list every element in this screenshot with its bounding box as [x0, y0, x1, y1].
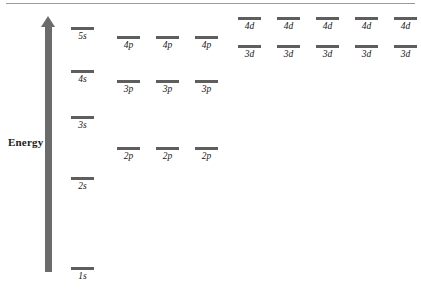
orbital-level-label: 4p: [156, 40, 179, 51]
orbital-level-label: 2s: [71, 181, 94, 192]
orbital-level-3p-2: 3p: [156, 80, 179, 95]
orbital-level-label: 2p: [156, 151, 179, 162]
orbital-level-label: 4d: [277, 21, 300, 32]
orbital-level-4d-4: 4d: [238, 17, 261, 32]
orbital-level-label: 3d: [238, 49, 261, 60]
orbital-level-label: 2p: [195, 151, 218, 162]
orbital-level-bar: [156, 80, 179, 83]
orbital-level-4p-3: 4p: [195, 36, 218, 51]
orbital-level-label: 3d: [316, 49, 339, 60]
energy-level-diagram: Energy 1s2s3s4s5s2p2p2p3p3p3p4p4p4p3d3d3…: [0, 0, 421, 292]
orbital-level-bar: [156, 147, 179, 150]
orbital-level-bar: [316, 45, 339, 48]
orbital-level-4d-5: 4d: [277, 17, 300, 32]
orbital-level-label: 3p: [156, 84, 179, 95]
orbital-level-bar: [195, 80, 218, 83]
orbital-level-label: 3p: [195, 84, 218, 95]
orbital-level-bar: [156, 36, 179, 39]
orbital-level-bar: [71, 267, 94, 270]
orbital-level-3d-7: 3d: [355, 45, 378, 60]
orbital-level-bar: [71, 177, 94, 180]
orbital-level-label: 4d: [238, 21, 261, 32]
orbital-level-4d-7: 4d: [355, 17, 378, 32]
orbital-level-3d-5: 3d: [277, 45, 300, 60]
orbital-level-bar: [71, 116, 94, 119]
orbital-level-label: 3d: [394, 49, 417, 60]
orbital-level-bar: [195, 147, 218, 150]
orbital-level-bar: [117, 147, 140, 150]
orbital-level-bar: [355, 45, 378, 48]
orbital-level-label: 4s: [71, 74, 94, 85]
orbital-level-4p-2: 4p: [156, 36, 179, 51]
orbital-level-label: 3p: [117, 84, 140, 95]
orbital-level-bar: [117, 36, 140, 39]
orbital-level-bar: [277, 45, 300, 48]
energy-axis-label: Energy: [8, 136, 43, 148]
orbital-level-4p-1: 4p: [117, 36, 140, 51]
orbital-level-3s-0: 3s: [71, 116, 94, 131]
orbital-level-bar: [117, 80, 140, 83]
orbital-level-2p-3: 2p: [195, 147, 218, 162]
orbital-level-3p-1: 3p: [117, 80, 140, 95]
orbital-level-2p-2: 2p: [156, 147, 179, 162]
orbital-level-label: 3d: [277, 49, 300, 60]
orbital-level-label: 1s: [71, 271, 94, 282]
orbital-level-bar: [195, 36, 218, 39]
orbital-level-1s-0: 1s: [71, 267, 94, 282]
orbital-level-bar: [355, 17, 378, 20]
orbital-level-bar: [316, 17, 339, 20]
orbital-level-bar: [238, 17, 261, 20]
orbital-level-label: 3s: [71, 120, 94, 131]
orbital-level-label: 4d: [394, 21, 417, 32]
top-divider-rule: [6, 3, 415, 4]
orbital-level-label: 4d: [355, 21, 378, 32]
orbital-level-5s-0: 5s: [71, 27, 94, 42]
orbital-level-label: 4p: [117, 40, 140, 51]
orbital-level-3p-3: 3p: [195, 80, 218, 95]
orbital-level-4d-6: 4d: [316, 17, 339, 32]
orbital-level-label: 4p: [195, 40, 218, 51]
orbital-level-4d-8: 4d: [394, 17, 417, 32]
orbital-level-3d-4: 3d: [238, 45, 261, 60]
orbital-level-bar: [277, 17, 300, 20]
orbital-level-bar: [71, 27, 94, 30]
orbital-level-label: 4d: [316, 21, 339, 32]
orbital-level-3d-6: 3d: [316, 45, 339, 60]
orbital-level-label: 5s: [71, 31, 94, 42]
orbital-level-3d-8: 3d: [394, 45, 417, 60]
orbital-level-bar: [394, 45, 417, 48]
orbital-level-label: 2p: [117, 151, 140, 162]
orbital-level-2p-1: 2p: [117, 147, 140, 162]
orbital-level-bar: [238, 45, 261, 48]
arrow-shaft: [45, 25, 52, 272]
orbital-level-4s-0: 4s: [71, 70, 94, 85]
orbital-level-bar: [71, 70, 94, 73]
orbital-level-bar: [394, 17, 417, 20]
orbital-level-2s-0: 2s: [71, 177, 94, 192]
orbital-level-label: 3d: [355, 49, 378, 60]
